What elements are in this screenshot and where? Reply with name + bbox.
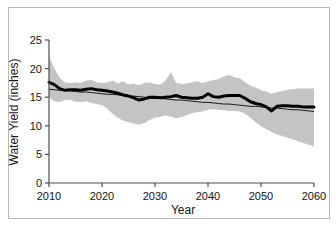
figure-root: 0510152025201020202030204020502060 Water…: [0, 0, 336, 230]
y-axis-tick-label: 25: [30, 34, 42, 46]
water-yield-chart: 0510152025201020202030204020502060 Water…: [0, 0, 336, 230]
y-axis-title: Water Yield (inches): [7, 59, 21, 166]
x-axis-title: Year: [171, 203, 195, 217]
y-axis-tick-label: 20: [30, 63, 42, 75]
y-axis-tick-label: 15: [30, 91, 42, 103]
y-axis-tick-label: 5: [36, 148, 42, 160]
plot-area: [49, 57, 314, 147]
x-axis-tick-label: 2020: [90, 190, 114, 202]
x-axis-tick-label: 2030: [143, 190, 167, 202]
x-axis-tick-label: 2060: [302, 190, 326, 202]
y-axis-tick-label: 10: [30, 120, 42, 132]
uncertainty-band: [49, 57, 314, 147]
x-axis-tick-label: 2010: [37, 190, 61, 202]
x-axis-tick-label: 2050: [249, 190, 273, 202]
x-axis-tick-label: 2040: [196, 190, 220, 202]
y-axis-tick-label: 0: [36, 177, 42, 189]
